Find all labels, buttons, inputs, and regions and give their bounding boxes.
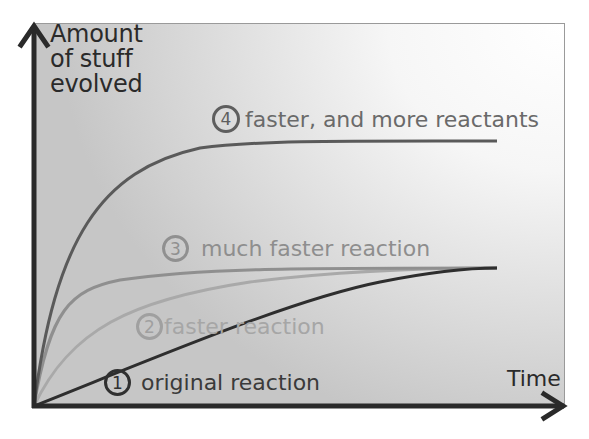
label-text-4: faster, and more reactants [245, 107, 539, 132]
y-axis-label-line-1: Amount [50, 22, 143, 47]
circled-number-1-icon: 1 [104, 369, 131, 396]
x-axis-label: Time [507, 366, 561, 391]
label-curve-2: 2 faster reaction [136, 313, 325, 340]
label-curve-3: 3 much faster reaction [162, 235, 430, 262]
label-text-1: original reaction [141, 370, 320, 395]
y-axis-label-line-3: evolved [50, 72, 143, 97]
circled-number-4-icon: 4 [212, 105, 240, 133]
label-curve-4: 4 faster, and more reactants [212, 105, 539, 133]
y-axis-label: Amount of stuff evolved [50, 22, 143, 97]
label-text-2: faster reaction [164, 314, 325, 339]
label-text-3: much faster reaction [201, 236, 430, 261]
y-axis-label-line-2: of stuff [50, 47, 143, 72]
circled-number-3-icon: 3 [162, 235, 189, 262]
label-curve-1: 1 original reaction [104, 369, 320, 396]
circled-number-2-icon: 2 [136, 313, 163, 340]
